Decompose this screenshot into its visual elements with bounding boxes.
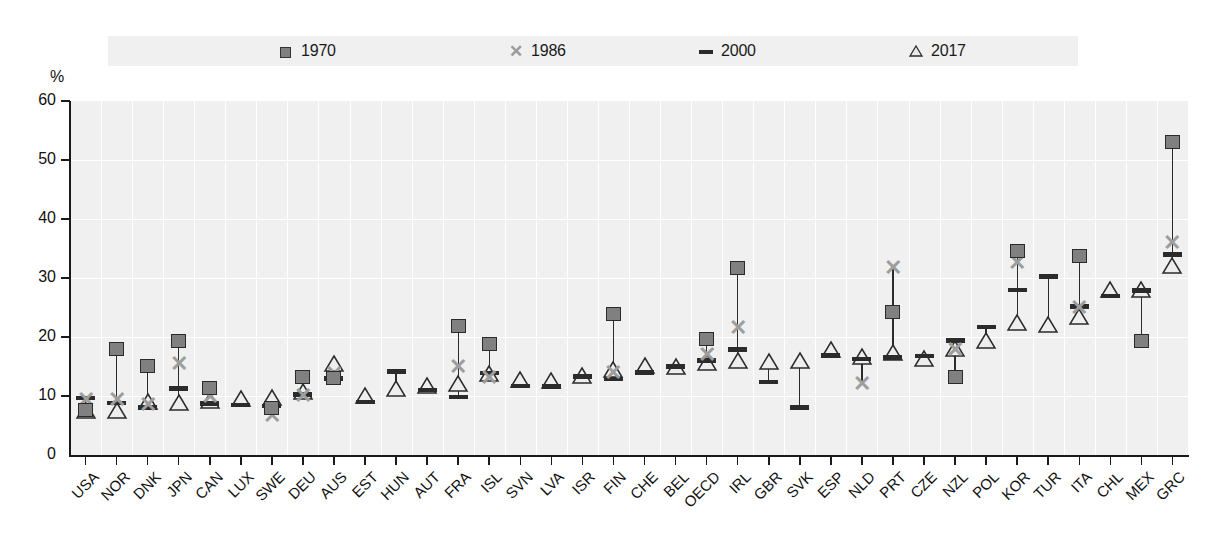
x-axis-tick [240, 457, 242, 465]
marker-1986-PRT: ✕ [883, 259, 902, 277]
marker-2017-GBR [758, 352, 780, 371]
x-axis-tick [923, 457, 925, 465]
chart-root: 1970✕198620002017 % 0102030405060USANORD… [0, 0, 1214, 552]
x-axis-tick [830, 457, 832, 465]
x-axis-tick [644, 457, 646, 465]
x-axis-tick [302, 457, 304, 465]
marker-2000-CHE [635, 370, 654, 375]
marker-1970-ISL [482, 337, 497, 351]
y-axis-tick [61, 277, 70, 279]
x-axis-tick [1110, 457, 1112, 465]
x-axis-tick [861, 457, 863, 465]
marker-1970-IRL [730, 261, 745, 275]
x-axis-tick [768, 457, 770, 465]
y-axis-tick [61, 100, 70, 102]
x-axis-tick [147, 457, 149, 465]
marker-1986-IRL: ✕ [728, 319, 747, 337]
x-axis-tick [954, 457, 956, 465]
marker-1970-DNK [140, 359, 155, 373]
marker-2017-IRL [727, 351, 749, 370]
marker-2000-IRL [728, 347, 747, 352]
x-axis-tick [1016, 457, 1018, 465]
x-axis-tick [209, 457, 211, 465]
marker-1970-NOR [109, 342, 124, 356]
y-axis-tick [61, 395, 70, 397]
x-axis-tick [706, 457, 708, 465]
marker-2017-AUT [416, 376, 438, 395]
y-axis-tick-label: 30 [12, 268, 56, 286]
marker-2000-PRT [883, 355, 902, 360]
marker-1970-USA [78, 403, 93, 417]
marker-2000-AUT [418, 388, 437, 393]
y-axis-tick-label: 0 [12, 445, 56, 463]
marker-2000-HUN [387, 369, 406, 374]
marker-1970-AUS [326, 371, 341, 385]
marker-2000-FRA [449, 395, 468, 400]
marker-1970-JPN [171, 334, 186, 348]
x-axis-tick [737, 457, 739, 465]
x-axis-tick [985, 457, 987, 465]
marker-2017-CZE [913, 349, 935, 368]
marker-1970-GRC [1165, 135, 1180, 149]
marker-1970-CAN [202, 381, 217, 395]
x-axis-tick [1141, 457, 1143, 465]
y-axis-tick [61, 159, 70, 161]
marker-1986-NOR: ✕ [107, 391, 126, 409]
marker-1986-NZL: ✕ [946, 341, 965, 359]
marker-2000-POL [977, 325, 996, 330]
x-axis-tick [488, 457, 490, 465]
marker-1970-OECD [699, 332, 714, 346]
y-axis-tick-label: 50 [12, 150, 56, 168]
marker-1986-ITA: ✕ [1070, 299, 1089, 317]
x-axis-tick [457, 457, 459, 465]
x-axis-tick [1079, 457, 1081, 465]
x-axis-tick [116, 457, 118, 465]
x-axis-tick [395, 457, 397, 465]
marker-2000-LVA [542, 384, 561, 389]
y-axis-tick-label: 40 [12, 209, 56, 227]
marker-2000-CHL [1101, 294, 1120, 299]
marker-1970-DEU [295, 370, 310, 384]
y-axis-tick-label: 10 [12, 386, 56, 404]
marker-2000-ISR [573, 374, 592, 379]
x-axis-tick [799, 457, 801, 465]
marker-2017-JPN [168, 393, 190, 412]
marker-1986-NLD: ✕ [852, 375, 871, 393]
marker-2000-SVK [790, 405, 809, 410]
x-axis-tick [551, 457, 553, 465]
x-axis-tick [613, 457, 615, 465]
marker-1970-ITA [1072, 249, 1087, 263]
x-axis-tick [364, 457, 366, 465]
marker-1970-KOR [1010, 244, 1025, 258]
y-axis-tick [61, 218, 70, 220]
marker-1970-MEX [1134, 334, 1149, 348]
marker-2000-ESP [821, 353, 840, 358]
x-axis-line [69, 455, 1189, 457]
marker-2000-CZE [915, 354, 934, 359]
marker-2000-KOR [1008, 288, 1027, 293]
marker-2017-POL [975, 331, 997, 350]
marker-1970-FRA [451, 319, 466, 333]
x-axis-tick [675, 457, 677, 465]
x-axis-tick [1172, 457, 1174, 465]
x-axis-tick [520, 457, 522, 465]
y-axis-tick [61, 336, 70, 338]
marker-2017-GRC [1161, 256, 1183, 275]
marker-1986-GRC: ✕ [1163, 234, 1182, 252]
marker-1970-PRT [885, 305, 900, 319]
marker-1986-OECD: ✕ [697, 346, 716, 364]
x-axis-tick [333, 457, 335, 465]
marker-2000-TUR [1039, 274, 1058, 279]
marker-2017-HUN [385, 379, 407, 398]
marker-1986-ISL: ✕ [480, 369, 499, 387]
y-axis-line [69, 101, 71, 457]
x-axis-tick [1047, 457, 1049, 465]
x-axis-tick [426, 457, 428, 465]
x-axis-tick [271, 457, 273, 465]
marker-2000-BEL [666, 364, 685, 369]
marker-1970-NZL [948, 370, 963, 384]
marker-1986-FRA: ✕ [449, 358, 468, 376]
range-connector-SVK [799, 367, 800, 407]
marker-2017-TUR [1037, 315, 1059, 334]
marker-1970-SWE [264, 401, 279, 415]
